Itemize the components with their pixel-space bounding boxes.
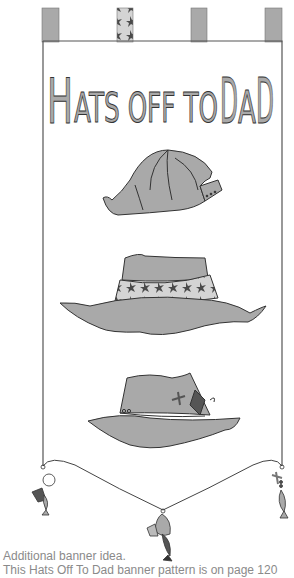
- right-fish-charm: [272, 465, 288, 518]
- baseball-cap: [103, 150, 222, 215]
- banner-title: H ATS OFF TO D A D: [47, 65, 274, 138]
- svg-text:D: D: [256, 65, 274, 138]
- tab-4: [265, 8, 282, 42]
- tab-3: [191, 8, 207, 42]
- hanging-tabs: [42, 8, 282, 42]
- svg-text:A: A: [238, 82, 256, 133]
- caption-additional-idea: Additional banner idea.: [3, 549, 126, 563]
- fishing-hat: [88, 373, 240, 448]
- svg-text:D: D: [220, 65, 238, 138]
- banner-illustration: H ATS OFF TO D A D: [0, 0, 294, 578]
- caption-pattern-page: This Hats Off To Dad banner pattern is o…: [3, 563, 277, 577]
- center-fish-charm: [147, 509, 172, 561]
- svg-text:ATS OFF TO: ATS OFF TO: [74, 85, 218, 131]
- charm-string: [43, 460, 282, 510]
- tab-2: [117, 8, 133, 42]
- tab-1: [42, 8, 59, 42]
- floral-bucket-hat: [60, 254, 266, 334]
- svg-text:H: H: [47, 65, 73, 138]
- left-fish-charm: [32, 465, 55, 515]
